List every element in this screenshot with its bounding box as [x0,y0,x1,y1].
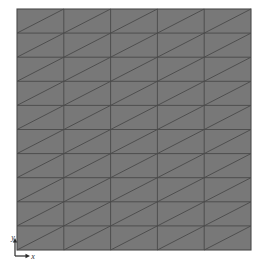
x-axis-label: x [30,252,35,261]
y-axis-label: y [10,233,15,242]
mesh-diagram-canvas: y x [0,0,261,270]
figure-root: y x [0,0,261,270]
x-axis-arrowhead-icon [26,254,31,258]
